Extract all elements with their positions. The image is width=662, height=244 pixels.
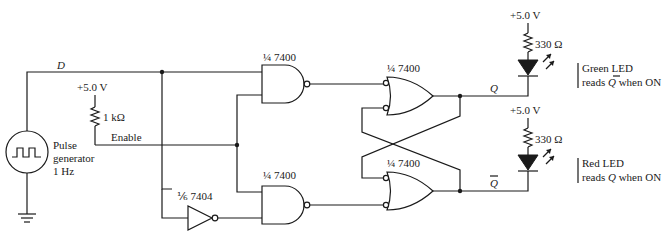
nand-top-gate	[262, 65, 310, 103]
green-led-label: Green LED	[582, 62, 633, 74]
red-led-icon	[518, 149, 554, 171]
nand-top-chip-label: ¼ 7400	[263, 51, 297, 63]
led-bottom-resistor-value: 330 Ω	[535, 133, 562, 145]
enable-label: Enable	[111, 131, 142, 143]
pulse-generator	[6, 131, 48, 222]
ground-icon	[18, 214, 36, 222]
gated-d-latch-schematic: D Pulse generator 1 Hz +5.0 V 1 kΩ Enabl…	[0, 0, 662, 244]
inverter-bubble	[212, 215, 218, 221]
nor-bottom-gate	[383, 172, 433, 210]
nor-bottom-chip-label: ¼ 7400	[387, 157, 421, 169]
green-led-reads: reads Q when ON	[582, 76, 661, 88]
inverter-gate	[188, 206, 218, 230]
red-led-reads: reads Q when ON	[582, 171, 661, 183]
led-top-resistor	[524, 23, 532, 60]
nor-top-gate	[383, 77, 433, 115]
pulse-label-2: generator	[53, 152, 95, 164]
enable-wire	[95, 95, 262, 192]
nor-top-input-bubble-1	[383, 80, 388, 85]
nand-top-bubble	[304, 81, 310, 87]
d-label: D	[56, 59, 65, 71]
nor-bottom-input-bubble-2	[383, 202, 388, 207]
pulse-label-3: 1 Hz	[53, 165, 74, 177]
pullup-resistor	[91, 95, 99, 145]
pullup-supply-label: +5.0 V	[77, 81, 108, 93]
led-bottom-supply-label: +5.0 V	[510, 104, 541, 116]
square-wave-icon	[12, 148, 41, 157]
qbar-label: Q	[490, 177, 498, 189]
nor-top-chip-label: ¼ 7400	[387, 62, 421, 74]
green-led-icon	[518, 54, 554, 76]
nand-bottom-chip-label: ¼ 7400	[263, 169, 297, 181]
nor-top-input-bubble-2	[383, 105, 388, 110]
led-bottom-resistor	[524, 118, 532, 155]
inverter-chip-label: ⅙ 7404	[177, 190, 213, 202]
led-top-resistor-value: 330 Ω	[535, 38, 562, 50]
nand-bottom-gate	[262, 186, 310, 224]
pulse-label-1: Pulse	[53, 139, 77, 151]
nand-bottom-bubble	[304, 202, 310, 208]
pullup-resistor-value: 1 kΩ	[103, 111, 125, 123]
nor-bottom-input-bubble-1	[383, 175, 388, 180]
led-top-supply-label: +5.0 V	[510, 9, 541, 21]
red-led-label: Red LED	[582, 157, 624, 169]
q-label: Q	[490, 82, 498, 94]
